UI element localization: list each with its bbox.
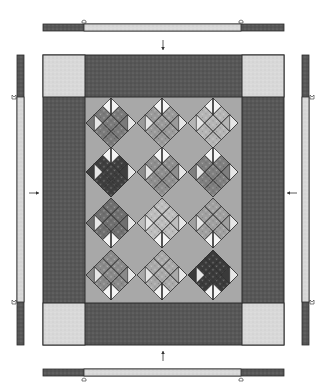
seam-marker-icon <box>12 95 16 99</box>
corner-square-1 <box>43 55 85 97</box>
left-arrow-icon <box>29 191 39 195</box>
bottom-border-strip <box>43 369 284 381</box>
seam-marker-icon <box>310 95 314 99</box>
quilt-assembly-diagram <box>0 0 326 384</box>
seam-marker-icon <box>82 20 86 23</box>
bottom-arrow-icon <box>161 351 165 361</box>
seam-marker-icon <box>310 300 314 304</box>
seam-marker-icon <box>82 378 86 381</box>
top-arrow-icon <box>161 40 165 50</box>
right-arrow-icon <box>287 191 297 195</box>
left-border-strip <box>12 55 24 345</box>
corner-square-4 <box>242 303 284 345</box>
seam-marker-icon <box>12 300 16 304</box>
top-border-strip <box>43 20 284 31</box>
right-border-strip <box>302 55 314 345</box>
corner-square-2 <box>242 55 284 97</box>
corner-square-3 <box>43 303 85 345</box>
seam-marker-icon <box>239 378 243 381</box>
seam-marker-icon <box>239 20 243 23</box>
